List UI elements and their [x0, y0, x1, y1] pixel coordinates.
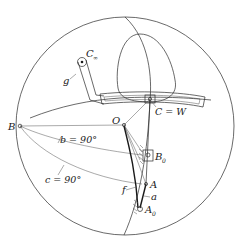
line-b-o	[20, 125, 124, 126]
label-b: B	[7, 121, 15, 132]
label-b-90: b = 90°	[60, 134, 97, 145]
pivot-c-infinity-center	[81, 61, 84, 64]
label-a0-sub: 0	[152, 210, 156, 217]
leader-a	[144, 196, 150, 197]
spherical-linkage-diagram: C ∞ g C = W O B b = 90° c = 90° B 0 A f …	[0, 0, 236, 242]
label-b0-sub: 0	[162, 157, 166, 164]
line-o-c	[124, 99, 150, 125]
leader-g	[70, 74, 76, 79]
link-f	[124, 126, 138, 208]
leader-f	[126, 187, 136, 190]
label-c-eq-w: C = W	[155, 106, 187, 117]
label-c-90: c = 90°	[45, 174, 81, 185]
label-a0: A	[144, 204, 152, 215]
label-o: O	[112, 115, 120, 126]
label-a: A	[149, 179, 157, 190]
fixed-pivot-b0	[146, 153, 150, 157]
label-c-infinity-sub: ∞	[93, 54, 98, 61]
slider-guide-outer	[100, 92, 205, 107]
fan-line-2	[124, 125, 140, 160]
label-a-link: a	[151, 191, 157, 202]
label-g: g	[63, 75, 69, 86]
